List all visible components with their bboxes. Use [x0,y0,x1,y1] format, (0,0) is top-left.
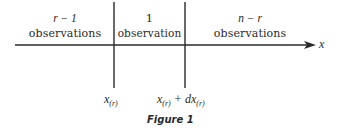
region-middle-count: 1 [114,13,185,25]
region-middle-text: observation [114,28,185,39]
region-above-count: n − r [200,13,300,25]
region-above-text: observations [200,28,300,39]
marker-sub: (r) [109,99,117,108]
figure-caption: Figure 1 [147,114,194,125]
x-axis-label: x [319,38,324,50]
marker-suffix: + dx [171,92,196,106]
region-middle-label: 1 observation [114,13,185,38]
marker-label-x-r: x(r) [104,93,118,108]
region-above-label: n − r observations [200,13,300,39]
region-below-label: r − 1 observations [20,13,110,39]
marker-label-x-r-plus-dx: x(r) + dx(r) [157,93,205,108]
marker-suffix-sub: (r) [196,99,204,108]
marker-sub: (r) [162,99,170,108]
region-below-count: r − 1 [20,13,110,25]
region-below-text: observations [20,28,110,39]
